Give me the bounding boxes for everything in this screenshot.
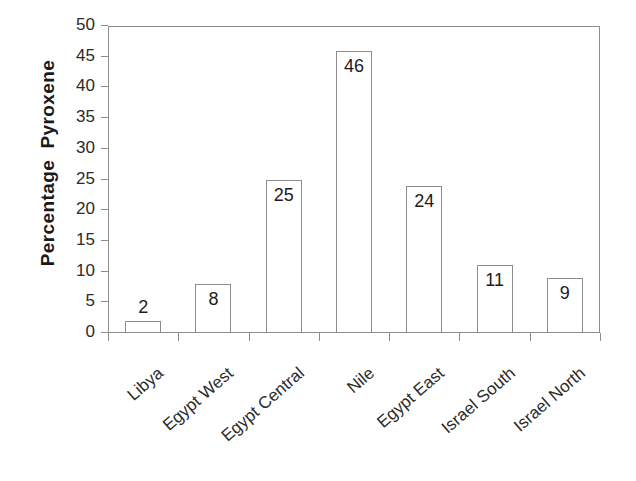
y-tick-label: 45 <box>55 46 95 66</box>
y-tick-mark <box>101 332 108 333</box>
y-tick-label: 35 <box>55 107 95 127</box>
bar-value-label: 46 <box>326 56 382 76</box>
bar-series: 28254624119 <box>108 26 600 333</box>
y-tick-label: 20 <box>55 199 95 219</box>
y-tick-mark <box>101 240 108 241</box>
bar-value-label: 25 <box>256 185 312 205</box>
y-tick-mark <box>101 117 108 118</box>
y-tick-label: 0 <box>55 322 95 342</box>
bar <box>336 51 372 333</box>
y-tick-mark <box>101 301 108 302</box>
bar <box>125 321 161 333</box>
y-tick-label: 15 <box>55 230 95 250</box>
bar-value-label: 24 <box>396 191 452 211</box>
x-axis-label: Libya <box>4 363 168 481</box>
y-tick-label: 5 <box>55 291 95 311</box>
y-tick-mark <box>101 25 108 26</box>
y-tick-mark <box>101 86 108 87</box>
bar-chart-figure: Percentage Pyroxene 05101520253035404550… <box>0 0 636 481</box>
x-axis-tick <box>459 333 460 341</box>
y-tick-label: 30 <box>55 138 95 158</box>
x-axis-tick <box>530 333 531 341</box>
bar-value-label: 8 <box>185 289 241 309</box>
y-tick-mark <box>101 148 108 149</box>
y-tick-mark <box>101 271 108 272</box>
x-axis-tick <box>319 333 320 341</box>
x-axis-tick <box>178 333 179 341</box>
y-tick-label: 40 <box>55 76 95 96</box>
y-tick-label: 50 <box>55 15 95 35</box>
y-tick-mark <box>101 56 108 57</box>
y-tick-mark <box>101 209 108 210</box>
x-axis-tick <box>249 333 250 341</box>
y-tick-mark <box>101 179 108 180</box>
bar-value-label: 9 <box>537 283 593 303</box>
x-axis-tick <box>389 333 390 341</box>
bar-value-label: 2 <box>115 297 171 317</box>
bar-value-label: 11 <box>467 270 523 290</box>
y-tick-label: 10 <box>55 261 95 281</box>
x-axis-tick <box>108 333 109 341</box>
x-axis-tick <box>600 333 601 341</box>
y-tick-label: 25 <box>55 169 95 189</box>
